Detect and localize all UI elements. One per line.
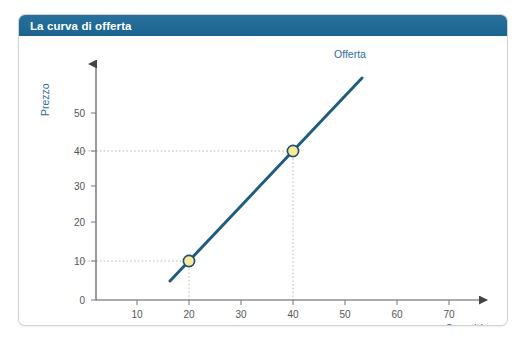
y-axis-ticks: 0 10 20 30 40 50 xyxy=(74,108,96,306)
y-tick-label: 0 xyxy=(79,295,85,306)
guide-lines xyxy=(77,151,293,300)
x-tick-label: 50 xyxy=(339,309,351,320)
x-tick-label: 60 xyxy=(391,309,403,320)
x-tick-label: 30 xyxy=(235,309,247,320)
y-tick-label: 20 xyxy=(74,217,86,228)
series-label-offerta: Offerta xyxy=(334,48,366,60)
x-tick-label: 40 xyxy=(287,309,299,320)
supply-curve-line xyxy=(170,78,362,281)
figure-title: La curva di offerta xyxy=(19,20,132,32)
x-axis-title: Quantità xyxy=(445,322,485,326)
figure-card: La curva di offerta xyxy=(18,14,508,326)
y-tick-label: 40 xyxy=(74,146,86,157)
x-tick-label: 10 xyxy=(131,309,143,320)
x-axis-ticks: 10 20 30 40 50 60 70 xyxy=(131,300,455,320)
x-tick-label: 70 xyxy=(443,309,455,320)
axes xyxy=(96,64,487,300)
data-point-marker xyxy=(183,255,194,266)
figure-title-bar: La curva di offerta xyxy=(19,15,508,36)
y-axis-title: Prezzo xyxy=(39,83,51,116)
chart-plot-area: 0 10 20 30 40 50 10 20 30 xyxy=(19,36,508,326)
y-tick-label: 50 xyxy=(74,108,86,119)
data-point-marker xyxy=(287,145,298,156)
x-tick-label: 20 xyxy=(183,309,195,320)
y-tick-label: 10 xyxy=(74,256,86,267)
supply-curve-series xyxy=(170,78,362,281)
y-tick-label: 30 xyxy=(74,181,86,192)
